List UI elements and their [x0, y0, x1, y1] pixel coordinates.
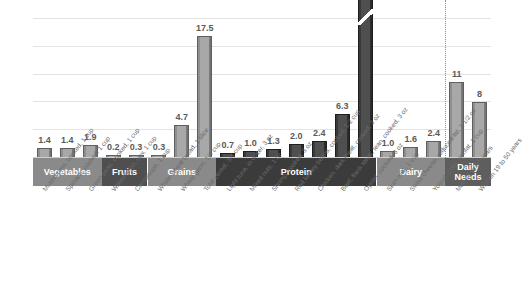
gridline	[33, 101, 491, 102]
bar-value-label: 17.5	[189, 23, 221, 33]
gridline	[33, 46, 491, 47]
bar-value-label: 1.9	[74, 132, 106, 142]
bar-value-label: 0.3	[143, 142, 175, 152]
x-axis-labels: Mushrooms, cooked, 1 cupSpinach, cooked,…	[33, 188, 491, 288]
gridline	[33, 74, 491, 75]
bar-value-label: 4.7	[166, 112, 198, 122]
axis-break-mark	[357, 9, 374, 25]
bar-value-label: 11	[441, 69, 473, 79]
bar-value-label: 6.3	[326, 101, 358, 111]
bar-value-label: 2.4	[418, 128, 450, 138]
bar-value-label: 2.4	[303, 128, 335, 138]
bar-value-label: 8	[464, 89, 496, 99]
gridline	[33, 18, 491, 19]
